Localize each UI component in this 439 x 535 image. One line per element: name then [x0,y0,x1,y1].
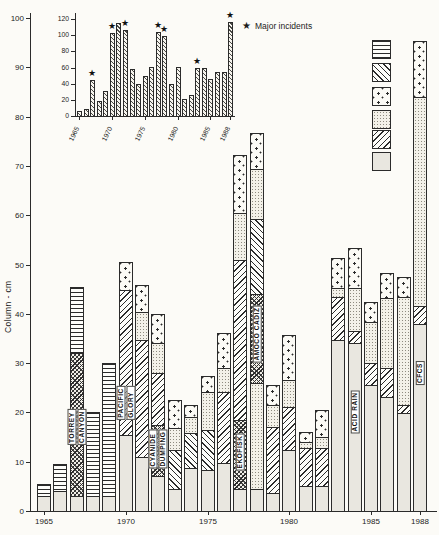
bar-segment-1986-marine [380,273,394,299]
main-y-tick-label-70: 70 [4,163,24,171]
bar-label-line: EKOFISK [235,433,244,470]
bar-segment-1978-river_water [250,383,264,490]
inset-x-tick-label-1965: 1965 [64,126,82,152]
bar-label-1970: PACIFICGLORY [116,386,136,420]
main-x-tick-label-1975: 1975 [195,518,221,526]
inset-bar-1976 [149,67,154,117]
inset-bar-1986 [215,72,220,117]
bar-segment-1982-industrial_oil [315,448,329,487]
inset-bar-1967 [90,80,95,117]
bar-segment-1976-industrial_oil [217,392,231,464]
bar-label-line: GLORY [127,386,136,420]
main-y-tick-90 [26,67,30,68]
inset-bar-1969 [103,91,108,117]
bar-label-1977: EKOFISK [235,433,244,470]
bar-segment-1978-river_water [250,169,264,220]
bar-segment-1987-industrial_oil [397,405,411,414]
inset-x-tick-label-1975: 1975 [130,126,148,152]
bar-segment-1967-undifferentiated [70,287,84,354]
bar-segment-1978-marine [250,133,264,170]
bar-label-1972: CYANIDEDUMPING [148,430,168,469]
inset-bar-1978 [162,36,167,117]
bar-segment-1977-marine [233,155,247,214]
inset-y-tick-label-80: 80 [52,48,69,55]
bar-label-line: CYANIDE [148,430,157,469]
inset-bar-1982 [189,95,194,117]
inset-bar-1965 [77,111,82,117]
bar-label-1978: AMOCO CADIZ [252,305,261,362]
bar-segment-1979-marine [266,385,280,406]
bar-segment-1974-marine [184,405,198,418]
bar-segment-1974-river_water [184,417,198,434]
bar-segment-1982-river_water [315,437,329,449]
inset-bar-1968 [97,101,102,117]
bar-label-1967: TORREYCANYON [67,409,87,445]
bar-segment-1978-air [250,489,264,512]
bar-segment-1979-air [266,493,280,512]
bar-segment-1967-air [70,496,84,512]
inset-y-tick-100 [71,35,75,36]
bar-segment-1971-river_water [135,312,149,341]
inset-x-tick-1985 [210,117,211,120]
inset-bar-1977 [156,32,161,117]
bar-segment-1988-air [413,324,427,512]
main-y-axis-line [30,13,31,512]
bar-label-line: CANYON [78,409,87,445]
legend-swatch-air [372,152,391,171]
inset-y-axis-line [75,13,76,117]
inset-x-tick-label-1980: 1980 [163,126,181,152]
main-x-tick-label-1980: 1980 [276,518,302,526]
main-y-tick-0 [26,511,30,512]
bar-segment-1983-river_water [331,288,345,298]
bar-segment-1971-marine [135,285,149,313]
bar-segment-1975-marine [201,376,215,393]
inset-bar-1981 [182,99,187,117]
inset-y-tick-label-100: 100 [52,32,69,39]
bar-segment-1986-air [380,397,394,512]
inset-y-tick-0 [71,116,75,117]
inset-star-1972: ★ [121,19,129,28]
legend-swatch-individual [372,63,391,82]
bar-segment-1968-undifferentiated [86,412,100,497]
main-x-tick-label-1965: 1965 [31,518,57,526]
bar-segment-1985-industrial_oil [364,363,378,386]
inset-y-tick-120 [71,19,75,20]
bar-segment-1985-marine [364,302,378,323]
bar-segment-1973-air [168,489,182,512]
bar-segment-1972-air [151,476,165,512]
legend-swatch-undifferentiated [372,40,391,59]
bar-segment-1978-individual [250,219,264,295]
inset-star-1983: ★ [193,57,201,66]
inset-y-tick-label-0: 0 [52,113,69,120]
bar-segment-1977-industrial_oil [233,260,247,421]
bar-segment-1987-air [397,413,411,512]
main-y-tick-label-80: 80 [4,114,24,122]
bar-label-line: PACIFIC [116,386,125,420]
star-icon: ★ [242,21,251,31]
inset-y-tick-label-20: 20 [52,97,69,104]
bar-segment-1976-marine [217,333,231,369]
inset-star-1978: ★ [160,25,168,34]
bar-segment-1983-marine [331,258,345,289]
inset-bar-1973 [130,69,135,117]
main-y-tick-80 [26,117,30,118]
main-y-tick-label-100: 100 [4,15,24,23]
bar-label-line: DUMPING [159,430,168,469]
main-y-tick-50 [26,265,30,266]
inset-x-tick-1970 [112,117,113,120]
bar-segment-1988-industrial_oil [413,306,427,325]
main-y-tick-60 [26,215,30,216]
inset-bar-1979 [169,84,174,117]
bar-label-line: AMOCO CADIZ [252,305,261,362]
bar-segment-1982-marine [315,410,329,438]
bar-segment-1981-marine [299,432,313,443]
bar-segment-1983-industrial_oil [331,297,345,341]
y-axis-title: Column - cm [3,243,13,333]
main-y-tick-label-10: 10 [4,459,24,467]
bar-segment-1975-individual [201,430,215,471]
inset-bar-1970 [110,33,115,117]
inset-y-tick-label-60: 60 [52,65,69,72]
bar-segment-1975-air [201,470,215,512]
inset-bar-1984 [202,68,207,117]
main-x-tick-label-1970: 1970 [113,518,139,526]
